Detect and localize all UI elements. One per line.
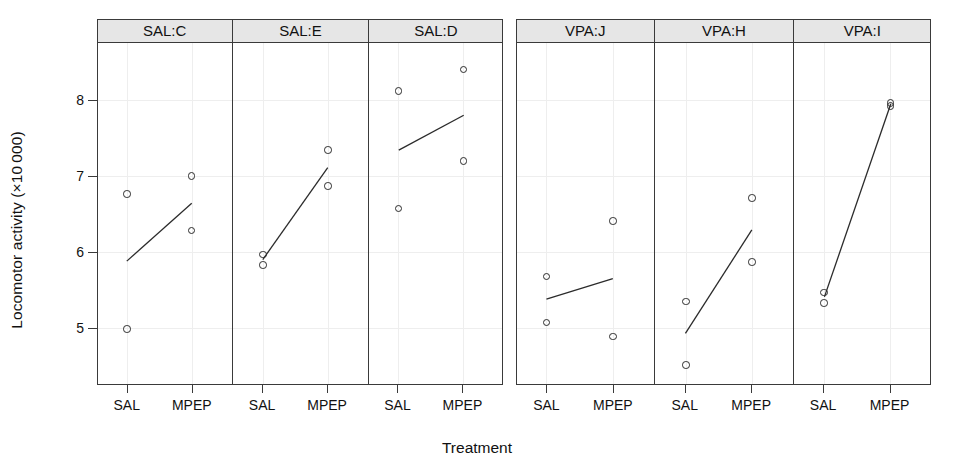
fit-line <box>794 43 931 385</box>
panel-sal-d[interactable]: SAL:D <box>368 19 503 385</box>
data-point <box>324 182 332 190</box>
data-point <box>820 289 828 297</box>
x-tick-label: MPEP <box>731 397 771 413</box>
data-point <box>123 190 131 198</box>
x-tick-mark <box>890 385 891 393</box>
y-tick-label: 7 <box>58 168 84 184</box>
x-tick-label: SAL <box>672 397 698 413</box>
x-tick-mark <box>751 385 752 393</box>
data-point <box>324 146 332 154</box>
x-tick-label: MPEP <box>307 397 347 413</box>
panel-strip-label: SAL:E <box>233 19 367 43</box>
x-tick-label: SAL <box>249 397 275 413</box>
data-point <box>609 217 617 225</box>
x-tick-mark <box>685 385 686 393</box>
panel-sal-e[interactable]: SAL:E <box>232 19 367 385</box>
x-tick-mark <box>327 385 328 393</box>
panel-plot-area <box>233 43 367 385</box>
y-axis-label: Locomotor activity (×10 000) <box>0 0 34 460</box>
data-point <box>682 298 690 306</box>
y-tick-mark <box>88 252 97 253</box>
x-tick-label: SAL <box>810 397 836 413</box>
x-tick-label: SAL <box>533 397 559 413</box>
fit-line <box>233 43 367 385</box>
data-point <box>460 157 468 165</box>
panel-strip-label: SAL:C <box>97 19 232 43</box>
fit-line <box>369 43 503 385</box>
x-axis-label: Treatment <box>0 439 954 457</box>
panel-vpa-i[interactable]: VPA:I <box>793 19 931 385</box>
x-tick-mark <box>613 385 614 393</box>
panel-plot-area <box>97 43 232 385</box>
panel-vpa-h[interactable]: VPA:H <box>654 19 792 385</box>
panel-plot-area <box>655 43 792 385</box>
y-tick-label: 8 <box>58 92 84 108</box>
data-point <box>887 102 895 110</box>
data-point <box>259 251 267 259</box>
y-tick-mark <box>88 100 97 101</box>
panel-strip-label: SAL:D <box>369 19 503 43</box>
data-point <box>259 261 267 269</box>
x-tick-mark <box>462 385 463 393</box>
data-point <box>820 299 828 307</box>
y-tick-label: 5 <box>58 320 84 336</box>
x-tick-mark <box>127 385 128 393</box>
panel-group-sal: SAL:CSAL:ESAL:D <box>97 19 503 385</box>
x-tick-label: MPEP <box>593 397 633 413</box>
x-tick-mark <box>546 385 547 393</box>
panel-vpa-j[interactable]: VPA:J <box>516 19 654 385</box>
x-tick-mark <box>192 385 193 393</box>
x-tick-mark <box>823 385 824 393</box>
panel-strip-label: VPA:I <box>794 19 931 43</box>
x-tick-label: MPEP <box>172 397 212 413</box>
data-point <box>123 325 131 333</box>
panel-plot-area <box>794 43 931 385</box>
x-tick-mark <box>262 385 263 393</box>
panel-sal-c[interactable]: SAL:C <box>97 19 232 385</box>
data-point <box>395 87 403 95</box>
panel-strip-label: VPA:J <box>516 19 654 43</box>
locomotor-activity-figure: Locomotor activity (×10 000) Treatment 5… <box>0 0 954 460</box>
fit-line <box>97 43 232 385</box>
panel-strip-label: VPA:H <box>655 19 792 43</box>
y-tick-mark <box>88 328 97 329</box>
data-point <box>748 258 756 266</box>
x-tick-mark <box>397 385 398 393</box>
x-tick-label: SAL <box>384 397 410 413</box>
data-point <box>748 194 756 202</box>
panel-plot-area <box>369 43 503 385</box>
data-point <box>609 333 617 341</box>
panel-plot-area <box>516 43 654 385</box>
x-tick-label: SAL <box>114 397 140 413</box>
fit-line <box>516 43 654 385</box>
panel-group-vpa: VPA:JVPA:HVPA:I <box>516 19 931 385</box>
data-point <box>682 361 690 369</box>
y-tick-mark <box>88 176 97 177</box>
y-tick-label: 6 <box>58 244 84 260</box>
x-tick-label: MPEP <box>870 397 910 413</box>
fit-line <box>655 43 792 385</box>
x-tick-label: MPEP <box>443 397 483 413</box>
